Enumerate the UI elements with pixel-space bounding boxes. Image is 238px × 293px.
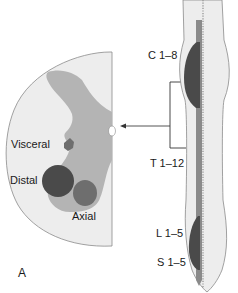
visceral-label: Visceral xyxy=(11,139,50,150)
axial-nucleus xyxy=(73,180,97,206)
thoracic-segment-label: T 1–12 xyxy=(150,158,184,169)
panel-label: A xyxy=(18,267,26,279)
lumbar-segment-label: L 1–5 xyxy=(156,228,183,239)
spinal-cord-longitudinal xyxy=(180,0,230,292)
cord-outline xyxy=(180,0,230,292)
pointer-arrow xyxy=(120,124,170,129)
distal-nucleus xyxy=(42,165,74,197)
spinal-cord-figure: Visceral Distal Axial C 1–8 T 1–12 L 1–5… xyxy=(0,0,238,293)
sacral-segment-label: S 1–5 xyxy=(157,257,186,268)
distal-label: Distal xyxy=(10,175,38,186)
axial-label: Axial xyxy=(72,211,96,222)
cervical-segment-label: C 1–8 xyxy=(148,50,177,61)
central-canal xyxy=(109,126,116,136)
